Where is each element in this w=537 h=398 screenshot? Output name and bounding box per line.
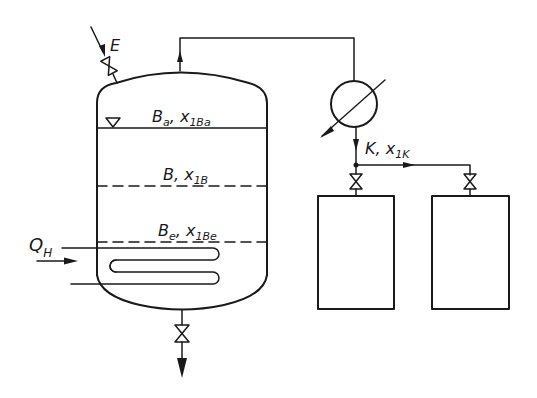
level-top-label: Ba, x1Ba <box>152 107 211 129</box>
heating-coil <box>62 248 219 284</box>
feed-inlet: E <box>91 27 121 83</box>
distillate-label: K, x1K <box>365 139 410 161</box>
drain-arrow-head-icon <box>177 358 187 378</box>
feed-arrow-head-icon <box>99 44 105 57</box>
level-marker-icon <box>106 118 120 127</box>
level-bottom-label: Be, x1Be <box>158 221 217 243</box>
valve-icon <box>464 174 476 189</box>
heat-input-label: QH <box>29 234 52 260</box>
receiver-1 <box>318 196 394 309</box>
bottom-valve-icon[interactable] <box>175 325 189 342</box>
receiver-2 <box>432 196 509 309</box>
heat-arrow-head-icon <box>64 258 78 265</box>
vapor-arrow-head-icon <box>177 51 183 62</box>
condenser <box>320 80 385 138</box>
distillate-arrow-head-icon <box>353 139 359 151</box>
coolant-arrow-head-icon <box>320 126 334 138</box>
bottom-drain <box>175 310 189 378</box>
level-mid-label: B, x1B <box>163 165 208 187</box>
feed-label: E <box>110 36 121 55</box>
branch-line <box>356 165 470 175</box>
feed-valve-icon[interactable] <box>101 57 117 76</box>
receiver-1-valve[interactable] <box>350 165 362 196</box>
valve-icon <box>350 174 362 189</box>
receiver-2-valve[interactable] <box>464 174 476 196</box>
batch-distillation-diagram: QH E Ba, x1Ba B, x1B Be, x1Be K, x1K <box>0 0 537 398</box>
branch-arrow-head-icon <box>403 162 415 168</box>
